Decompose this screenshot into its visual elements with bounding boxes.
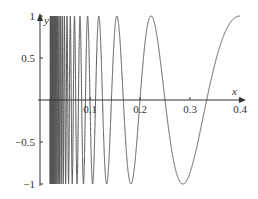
x-tick-label: 0.2 xyxy=(133,103,147,115)
y-axis-arrow-icon xyxy=(37,13,43,21)
x-tick-label: 0.1 xyxy=(83,103,97,115)
x-axis-label: x xyxy=(231,85,237,97)
y-tick-label: −0.5 xyxy=(15,136,35,148)
plot-area: 0.10.20.30.4 10.5−0.5−1 x y xyxy=(0,0,258,199)
y-tick-label: 0.5 xyxy=(21,52,35,64)
y-tick-label: −1 xyxy=(23,178,35,190)
y-tick-label: 1 xyxy=(30,10,36,22)
y-axis-label: y xyxy=(43,14,49,26)
x-tick-label: 0.3 xyxy=(183,103,197,115)
x-tick-label: 0.4 xyxy=(233,103,247,115)
